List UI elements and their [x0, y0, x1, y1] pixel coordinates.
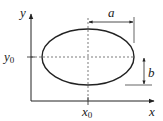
y0-label: y0: [2, 49, 15, 65]
x0-label-subscript: 0: [88, 110, 93, 120]
y0-label-subscript: 0: [10, 55, 15, 65]
x-axis-label: x: [148, 104, 155, 119]
x0-label: x0: [81, 104, 93, 120]
ellipse-diagram: y x y0 x0 a b: [0, 0, 163, 121]
b-label: b: [148, 65, 155, 80]
y-axis-label: y: [18, 5, 26, 20]
a-label: a: [108, 5, 115, 20]
diagram-svg: y x y0 x0 a b: [0, 0, 163, 121]
